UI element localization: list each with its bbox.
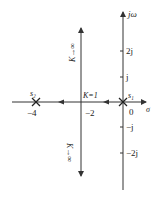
- tick-label-neg-2j: −2j: [126, 148, 138, 158]
- tick-label-2j: 2j: [126, 46, 133, 56]
- pole-label-s1: s₁: [128, 91, 134, 100]
- breakaway-label: K=1: [82, 91, 98, 100]
- imag-axis-label: jω: [127, 9, 137, 19]
- root-locus-diagram: jω σ 0 2j j −j −2j −4 −2 s₂ s₁ K=1 K→∞ K…: [0, 0, 159, 202]
- tick-label-neg-j: −j: [126, 122, 134, 132]
- real-tick-label-neg2: −2: [85, 108, 95, 118]
- asymptote-label-up: K→∞: [68, 43, 77, 63]
- locus-arrow-right-icon: [103, 100, 109, 105]
- pole-label-s2: s₂: [30, 89, 36, 98]
- real-tick-label-neg4: −4: [27, 108, 37, 118]
- origin-label: 0: [129, 107, 134, 117]
- real-axis-label: σ: [146, 105, 151, 114]
- tick-label-j: j: [125, 72, 129, 82]
- asymptote-label-down: K→∞: [65, 142, 74, 162]
- locus-arrow-left-icon: [58, 100, 64, 105]
